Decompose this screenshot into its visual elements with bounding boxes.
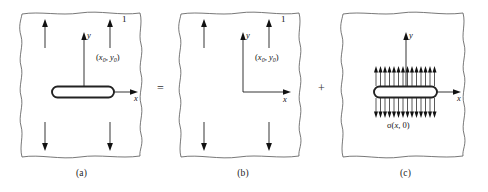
panel-c-drawing: y x σ(x, 0) — [323, 0, 488, 168]
body-outline-b — [179, 12, 301, 158]
load-magnitude-label-a: 1 — [122, 14, 127, 24]
x-axis-label-b: x — [282, 94, 287, 104]
body-outline-a — [20, 12, 142, 158]
source-point-label-a: (x0, y0) — [96, 52, 120, 63]
caption-b: (b) — [163, 168, 323, 178]
source-point-label-b: (x0, y0) — [255, 52, 279, 63]
pressure-label-c: σ(x, 0) — [387, 120, 410, 130]
crack-a — [52, 87, 114, 98]
x-axis-label-a: x — [133, 93, 138, 103]
panel-a: y x 1 (x0, y0) (a) — [0, 0, 163, 192]
panel-b-drawing: y x 1 (x0, y0) — [163, 0, 323, 168]
y-axis-label-a: y — [86, 30, 91, 40]
x-axis-label-c: x — [456, 93, 461, 103]
crack-c — [374, 87, 437, 98]
superposition-figure: y x 1 (x0, y0) (a) = — [0, 0, 488, 192]
y-axis-label-b: y — [245, 30, 250, 40]
panel-a-drawing: y x 1 (x0, y0) — [0, 0, 163, 168]
panel-b: y x 1 (x0, y0) (b) — [163, 0, 323, 192]
y-axis-label-c: y — [408, 30, 413, 40]
caption-a: (a) — [0, 168, 163, 178]
load-magnitude-label-b: 1 — [281, 14, 286, 24]
caption-c: (c) — [323, 168, 488, 178]
panel-c: y x σ(x, 0) (c) — [323, 0, 488, 192]
